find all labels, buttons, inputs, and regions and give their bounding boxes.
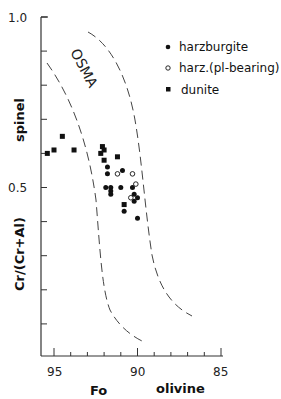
data-point-filled-circle xyxy=(108,192,113,197)
data-point-open-circle xyxy=(129,195,134,200)
data-point-open-circle xyxy=(134,182,139,187)
data-point-filled-circle xyxy=(105,171,110,176)
data-point-filled-square xyxy=(72,147,77,152)
legend-label-harzburgite: harzburgite xyxy=(179,40,248,54)
x-minor-ticks xyxy=(54,348,221,356)
data-point-filled-square xyxy=(60,134,65,139)
legend-marker-open-circle-icon xyxy=(166,66,170,70)
x-axis-label-fo: Fo xyxy=(90,383,107,398)
y-axis-label-spinel: spinel xyxy=(12,98,27,142)
data-point-open-circle xyxy=(130,172,135,177)
data-point-filled-circle xyxy=(103,185,108,190)
data-point-filled-circle xyxy=(118,185,123,190)
y-tick-label-1-0: 1.0 xyxy=(8,11,27,25)
data-point-filled-circle xyxy=(120,168,125,173)
data-point-filled-square xyxy=(98,151,103,156)
x-tick-label-85: 85 xyxy=(213,365,228,379)
data-points xyxy=(45,134,140,221)
y-axis-label-cr-ratio: Cr/(Cr+Al) xyxy=(12,217,27,291)
data-point-filled-circle xyxy=(122,209,127,214)
scatter-chart: 1.0 0.5 95 90 85 Fo olivine spinel Cr/(C… xyxy=(0,0,281,399)
osma-left-boundary xyxy=(47,63,142,341)
legend-marker-filled-circle-icon xyxy=(166,45,171,50)
data-point-filled-square xyxy=(122,202,127,207)
data-point-filled-circle xyxy=(135,216,140,221)
x-tick-label-95: 95 xyxy=(47,365,62,379)
legend: harzburgite harz.(pl-bearing) dunite xyxy=(166,40,280,97)
y-tick-label-0-5: 0.5 xyxy=(8,181,27,195)
data-point-filled-square xyxy=(115,154,120,159)
x-tick-label-90: 90 xyxy=(130,365,145,379)
legend-label-dunite: dunite xyxy=(181,83,219,97)
data-point-filled-square xyxy=(102,158,107,163)
y-minor-ticks xyxy=(41,17,47,324)
osma-field-label: OSMA xyxy=(67,46,101,91)
data-point-open-circle xyxy=(115,172,120,177)
data-point-filled-square xyxy=(45,151,50,156)
data-point-filled-circle xyxy=(105,165,110,170)
x-axis-label-olivine: olivine xyxy=(156,381,205,396)
legend-label-harz-pl-bearing: harz.(pl-bearing) xyxy=(179,61,280,75)
legend-marker-filled-square-icon xyxy=(166,87,171,92)
data-point-filled-square xyxy=(52,147,57,152)
osma-right-boundary xyxy=(88,32,192,316)
